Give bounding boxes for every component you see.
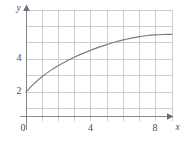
x-tick-label-4: 4 bbox=[88, 122, 93, 133]
y-tick-label-4: 4 bbox=[17, 52, 22, 63]
y-axis-label: y bbox=[16, 3, 22, 13]
plot-background bbox=[0, 0, 186, 146]
y-tick-label-2: 2 bbox=[17, 85, 22, 96]
x-tick-label-8: 8 bbox=[153, 122, 158, 133]
x-tick-label-0: 0 bbox=[21, 122, 26, 133]
x-axis-label: x bbox=[175, 122, 181, 132]
chart-screenshot: 0 4 8 2 4 y x bbox=[0, 0, 186, 146]
graph-figure: 0 4 8 2 4 y x bbox=[0, 0, 186, 146]
